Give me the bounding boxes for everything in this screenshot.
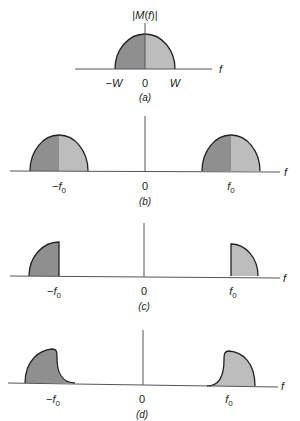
caption-c: (c) [138, 301, 150, 312]
tick-minus-f0: −f0 [52, 180, 67, 195]
panel-c: f −f0 0 f0 (c) [10, 223, 287, 312]
tick-f0: f0 [227, 180, 235, 195]
tick-f0: f0 [229, 285, 237, 300]
panel-a: |M(f)| f −W 0 W (a) [75, 9, 223, 103]
panel-d: f −f0 0 f0 (d) [8, 330, 285, 420]
axis-label-f: f [281, 380, 285, 392]
tick-zero: 0 [142, 180, 148, 192]
tick-zero: 0 [142, 77, 148, 89]
y-axis-label: |M(f)| [132, 9, 157, 21]
caption-d: (d) [136, 409, 148, 420]
axis-label-f: f [284, 166, 288, 178]
caption-a: (a) [139, 92, 151, 103]
axis-label-f: f [283, 272, 287, 284]
axis-label-f: f [219, 63, 223, 75]
tick-w: W [170, 77, 182, 89]
tick-minus-w: −W [106, 77, 124, 89]
tick-f0: f0 [225, 393, 233, 408]
caption-b: (b) [139, 196, 151, 207]
tick-minus-f0: −f0 [47, 285, 62, 300]
tick-zero: 0 [139, 393, 145, 405]
tick-minus-f0: −f0 [46, 393, 61, 408]
modulation-spectra-diagram: |M(f)| f −W 0 W (a) f −f0 0 f0 (b) f −f0… [0, 0, 300, 421]
tick-zero: 0 [141, 285, 147, 297]
panel-b: f −f0 0 f0 (b) [10, 116, 288, 207]
